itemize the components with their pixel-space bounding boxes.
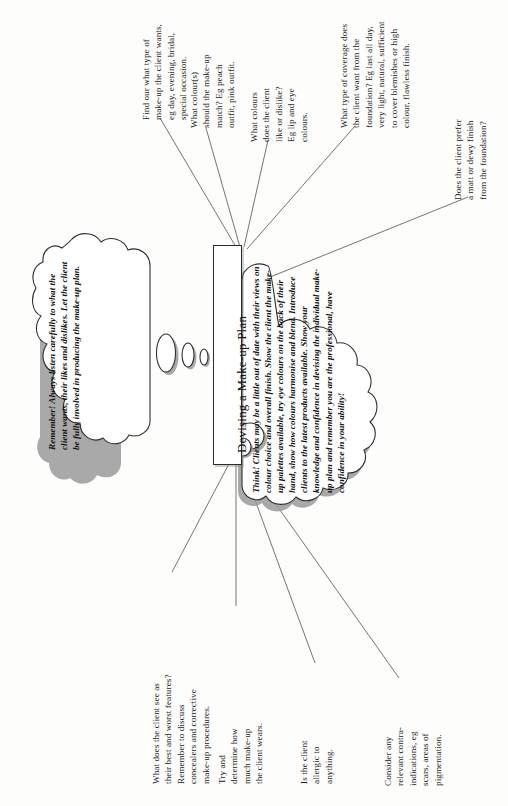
callout-allergy: Is the client allergic to anything. [298,738,330,784]
connector-line-type [160,118,236,247]
think-cloud-text: Think! Clients may be a little out of da… [250,265,362,493]
connector-line-contra [246,462,399,678]
diagram-page: Devising a Make-up Plan Remember! Always… [0,0,508,806]
connector-line-colour-match [206,128,240,247]
callout-colour-likes: What colours does the client like or dis… [248,74,296,142]
callout-colour-match: What colour(s) should the make-up match?… [188,48,236,128]
callout-finish: Does the client prefer a matt or dewy fi… [452,114,482,200]
callout-amount: Try and determine how much make-up the c… [216,722,260,784]
page-title: Devising a Make-up Plan [234,316,250,453]
callout-features: What does the client see as their best a… [150,672,212,784]
center-topic-box[interactable]: Devising a Make-up Plan [213,245,242,465]
connector-line-colour-likes [244,140,268,247]
connector-line-features [172,460,231,572]
connector-line-coverage [247,126,355,249]
callout-contra: Consider any relevant contra-indications… [382,714,426,786]
remember-cloud-bubbles [157,334,211,375]
callout-coverage: What type of coverage does the client wa… [338,18,412,128]
remember-cloud-text: Remember! Always listen carefully to wha… [46,255,104,450]
connector-group-top [160,118,468,288]
